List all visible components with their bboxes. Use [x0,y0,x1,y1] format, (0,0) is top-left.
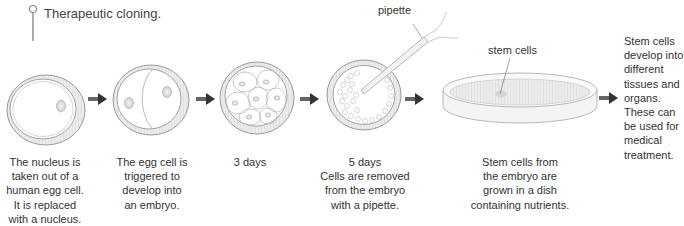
arrow-right-icon [88,93,107,105]
petri-dish-icon [443,58,597,123]
step-5-caption: Stem cells from the embryo are grown in … [465,155,575,212]
step-1-caption: The nucleus is taken out of a human egg … [4,155,86,226]
arrow-right-icon [405,93,424,105]
step-4-caption: 5 days Cells are removed from the embryo… [320,155,410,212]
stem-cells-label: stem cells [488,44,537,56]
step-6-caption: Stem cells develop into different tissue… [624,34,684,162]
multicell-embryo-icon [220,62,294,134]
step-3-caption: 3 days [230,155,270,169]
arrow-right-icon [196,93,215,105]
pipette-label: pipette [378,4,411,16]
arrow-right-icon [599,92,618,104]
arrow-right-icon [300,93,319,105]
step-2-caption: The egg cell is triggered to develop int… [112,155,192,212]
dividing-egg-cell-icon [113,65,189,135]
blastocyst-with-pipette-icon [327,12,458,130]
egg-cell-icon [7,75,85,145]
